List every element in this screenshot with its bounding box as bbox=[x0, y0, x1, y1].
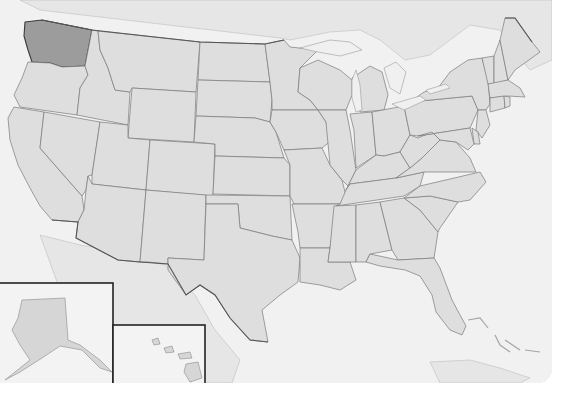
map-canvas bbox=[0, 0, 552, 383]
state-north-dakota[interactable] bbox=[198, 42, 270, 82]
us-map bbox=[0, 0, 552, 383]
state-colorado[interactable] bbox=[146, 140, 215, 196]
state-oregon[interactable] bbox=[14, 62, 88, 115]
state-wyoming[interactable] bbox=[128, 88, 196, 142]
hawaii-inset bbox=[113, 325, 205, 383]
state-kansas[interactable] bbox=[213, 156, 290, 196]
state-south-dakota[interactable] bbox=[196, 80, 272, 122]
state-new-mexico[interactable] bbox=[140, 190, 206, 264]
alaska-inset bbox=[0, 283, 113, 383]
state-rhode-island[interactable] bbox=[504, 96, 510, 108]
